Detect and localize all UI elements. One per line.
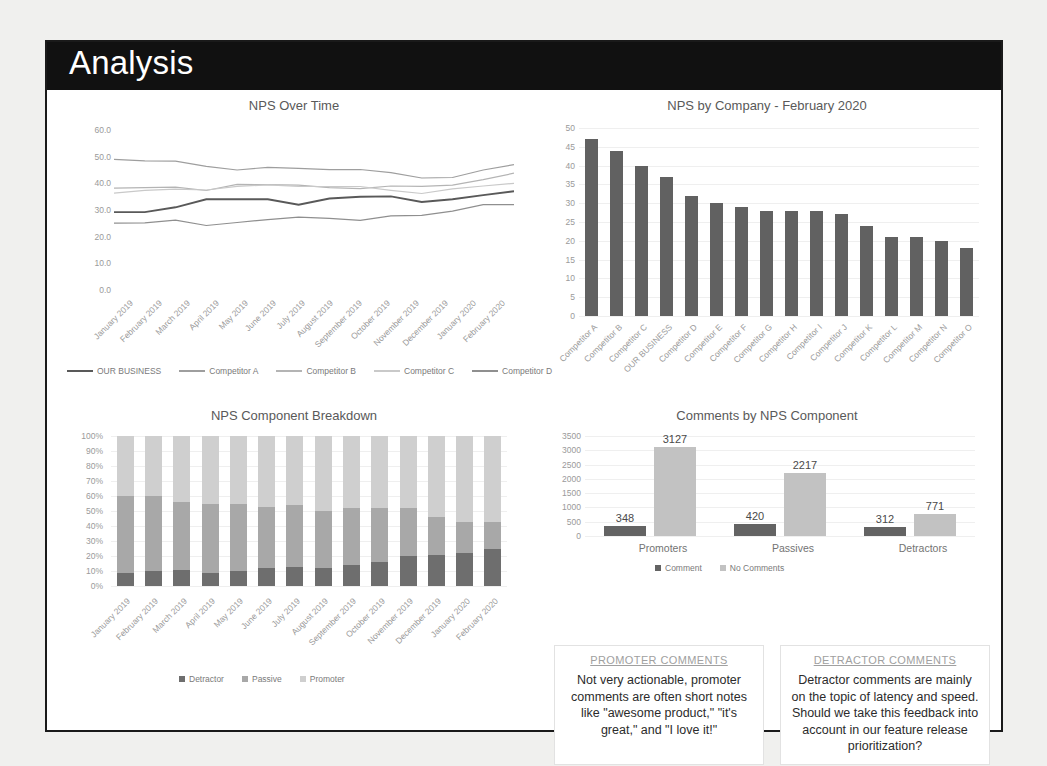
y-tick-label: 90% xyxy=(63,446,103,456)
stacked-segment-detractor xyxy=(145,571,162,586)
promoter-comments-note: PROMOTER COMMENTS Not very actionable, p… xyxy=(554,645,764,765)
gridline xyxy=(579,316,979,317)
comments-bar xyxy=(604,526,646,536)
y-tick-label: 1000 xyxy=(541,502,581,512)
legend-label: Passive xyxy=(252,674,282,684)
slide-body: NPS Over Time 0.010.020.030.040.050.060.… xyxy=(47,90,1001,732)
line-series-svg xyxy=(114,130,514,290)
chart-title-comments-by-nps-component: Comments by NPS Component xyxy=(537,408,997,423)
stacked-segment-passive xyxy=(428,517,445,555)
y-tick-label: 45 xyxy=(535,142,575,152)
gridline xyxy=(111,556,507,557)
legend-label: Competitor C xyxy=(404,366,454,376)
bar xyxy=(935,241,948,316)
chart-title-nps-component-breakdown: NPS Component Breakdown xyxy=(59,408,529,423)
stacked-segment-passive xyxy=(456,522,473,554)
y-tick-label: 30 xyxy=(535,198,575,208)
gridline xyxy=(111,586,507,587)
stacked-segment-passive xyxy=(484,522,501,549)
bar xyxy=(710,203,723,316)
line-series xyxy=(114,159,514,178)
gridline xyxy=(585,479,975,480)
bar xyxy=(960,248,973,316)
stacked-segment-detractor xyxy=(286,567,303,587)
line-series xyxy=(114,191,514,212)
x-group-label: Passives xyxy=(733,542,853,554)
bar xyxy=(635,166,648,316)
stacked-segment-detractor xyxy=(456,553,473,586)
y-tick-label: 50 xyxy=(535,123,575,133)
chart-title-nps-by-company: NPS by Company - February 2020 xyxy=(537,98,997,113)
legend-item: Comment xyxy=(655,563,702,573)
stacked-segment-promoter xyxy=(230,436,247,504)
y-tick-label: 100% xyxy=(63,431,103,441)
stacked-bar xyxy=(173,436,190,586)
gridline xyxy=(111,571,507,572)
stacked-bar xyxy=(400,436,417,586)
stacked-bar xyxy=(145,436,162,586)
stacked-segment-promoter xyxy=(400,436,417,508)
y-tick-label: 5 xyxy=(535,292,575,302)
y-tick-label: 10% xyxy=(63,566,103,576)
y-tick-label: 80% xyxy=(63,461,103,471)
bar-value-label: 312 xyxy=(857,513,913,525)
bar xyxy=(810,211,823,316)
stack-plot-area xyxy=(111,436,507,586)
promoter-comments-heading: PROMOTER COMMENTS xyxy=(565,654,753,666)
legend-swatch-square xyxy=(179,676,185,682)
gridline xyxy=(111,466,507,467)
bar xyxy=(760,211,773,316)
stacked-segment-passive xyxy=(371,508,388,562)
stacked-segment-passive xyxy=(230,504,247,572)
bar-value-label: 420 xyxy=(727,510,783,522)
stacked-segment-promoter xyxy=(315,436,332,511)
bar xyxy=(685,196,698,316)
y-tick-label: 70% xyxy=(63,476,103,486)
stacked-segment-passive xyxy=(145,496,162,571)
bar xyxy=(735,207,748,316)
legend-swatch-square xyxy=(300,676,306,682)
stacked-segment-promoter xyxy=(286,436,303,505)
y-tick-label: 40.0 xyxy=(71,178,111,188)
legend-label: No Comments xyxy=(730,563,784,573)
stacked-segment-promoter xyxy=(456,436,473,522)
bar-value-label: 348 xyxy=(597,512,653,524)
bar-value-label: 3127 xyxy=(647,433,703,445)
legend-item: Competitor B xyxy=(276,366,356,376)
y-tick-label: 60% xyxy=(63,491,103,501)
y-tick-label: 10 xyxy=(535,273,575,283)
y-tick-label: 1500 xyxy=(541,488,581,498)
stacked-segment-promoter xyxy=(371,436,388,508)
gridline xyxy=(585,493,975,494)
y-tick-label: 15 xyxy=(535,255,575,265)
stacked-segment-detractor xyxy=(258,568,275,586)
y-tick-label: 0.0 xyxy=(71,285,111,295)
stacked-segment-detractor xyxy=(117,573,134,587)
legend-label: Detractor xyxy=(189,674,224,684)
detractor-comments-body: Detractor comments are mainly on the top… xyxy=(791,672,979,755)
gridline xyxy=(111,481,507,482)
bar xyxy=(785,211,798,316)
legend-swatch-square xyxy=(655,565,661,571)
y-tick-label: 500 xyxy=(541,517,581,527)
bar xyxy=(660,177,673,316)
gridline xyxy=(111,496,507,497)
stacked-segment-passive xyxy=(258,507,275,569)
stacked-bar xyxy=(371,436,388,586)
x-group-label: Promoters xyxy=(603,542,723,554)
gridline xyxy=(111,511,507,512)
comments-bar xyxy=(784,473,826,536)
legend-label: Competitor A xyxy=(209,366,258,376)
slide-page: Analysis NPS Over Time 0.010.020.030.040… xyxy=(45,40,1003,732)
y-tick-label: 40 xyxy=(535,161,575,171)
legend-item: Passive xyxy=(242,674,282,684)
stacked-bar xyxy=(117,436,134,586)
legend-label: OUR BUSINESS xyxy=(97,366,161,376)
stacked-segment-passive xyxy=(315,511,332,568)
y-tick-label: 10.0 xyxy=(71,258,111,268)
y-tick-label: 0% xyxy=(63,581,103,591)
comments-bar xyxy=(914,514,956,536)
stacked-segment-promoter xyxy=(258,436,275,507)
bar xyxy=(860,226,873,316)
legend-swatch-line xyxy=(472,370,498,372)
